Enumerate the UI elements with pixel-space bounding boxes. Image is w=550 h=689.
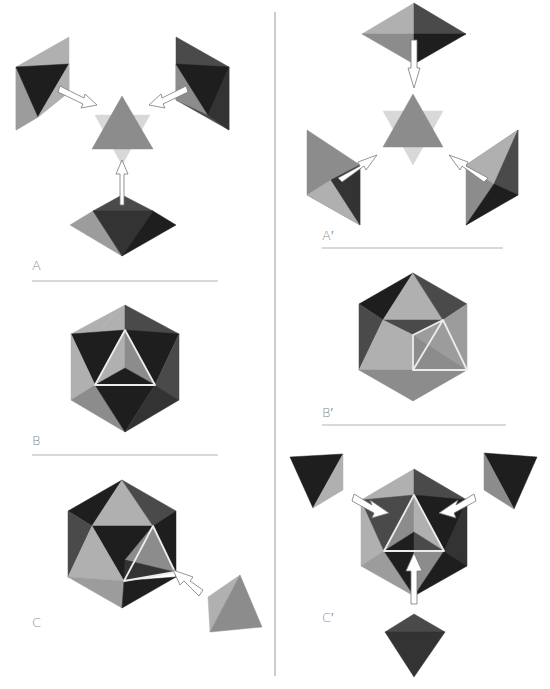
face-b-hex-top-right — [125, 305, 179, 334]
face-c-hex-ll — [68, 577, 124, 608]
panel-label-a: A — [32, 258, 41, 273]
face-a-prime-top-solid-ll — [362, 34, 414, 64]
panel-label-a-prime: A′ — [322, 228, 333, 243]
face-a-prime-top-solid-ur — [414, 3, 466, 34]
face-b-prime-hex-lr — [413, 370, 467, 401]
dual-polyhedra-diagram — [0, 0, 550, 689]
face-c-prime-bottom-tetra-top — [385, 614, 445, 632]
arrow-left-to-center-icon — [58, 86, 97, 108]
panel-label-c-prime: C′ — [322, 610, 334, 625]
panel-label-b-prime: B′ — [322, 405, 333, 420]
face-c-prime-hex-ur — [414, 469, 467, 500]
face-c-hex-lr — [122, 577, 176, 608]
panel-label-c: C — [32, 615, 41, 630]
face-c-prime-bottom-tetra-front — [385, 632, 445, 677]
panel-label-b: B — [32, 433, 41, 448]
face-a-prime-top-solid-ul — [362, 3, 414, 34]
face-a-prime-top-solid-lr — [414, 34, 466, 64]
arrow-tetra-to-hole-icon — [173, 570, 203, 596]
face-b-prime-hex-ll — [359, 370, 413, 401]
face-c-prime-hex-ul — [361, 469, 414, 500]
